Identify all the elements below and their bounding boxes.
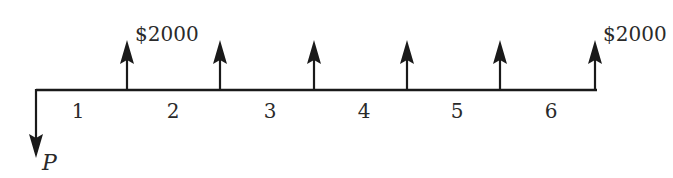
diagram-svg: P$2000$2000123456 — [0, 0, 673, 178]
period-label: 1 — [72, 99, 85, 123]
inflow-amount-label: $2000 — [603, 22, 667, 46]
cash-flow-diagram: P$2000$2000123456 — [0, 0, 673, 178]
period-label: 3 — [264, 99, 277, 123]
outflow-label-p: P — [41, 150, 58, 175]
period-label: 6 — [545, 99, 558, 123]
period-label: 4 — [358, 99, 371, 123]
inflow-amount-label: $2000 — [135, 22, 199, 46]
period-label: 2 — [167, 99, 180, 123]
period-label: 5 — [451, 99, 464, 123]
